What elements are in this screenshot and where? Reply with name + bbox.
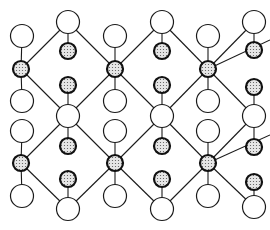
large-atom [151,198,174,221]
small-dotted-atom [60,43,76,59]
small-dotted-atom [60,171,76,187]
small-dotted-atom [107,155,123,171]
large-atom [197,120,220,143]
small-dotted-atom [154,138,170,154]
small-dotted-atom [246,139,262,155]
large-atom [151,11,174,34]
small-dotted-atom [13,61,29,77]
large-atom [197,90,220,113]
large-atom [151,105,174,128]
small-dotted-atom [154,43,170,59]
small-atoms-layer [13,42,262,190]
large-atom [11,185,34,208]
large-atom [57,11,80,34]
large-atom [197,185,220,208]
small-dotted-atom [154,77,170,93]
large-atom [243,105,266,128]
small-dotted-atom [246,42,262,58]
large-atom [104,185,127,208]
large-atom [104,25,127,48]
small-dotted-atom [60,138,76,154]
large-atom [11,25,34,48]
crystal-lattice-diagram [0,0,270,230]
small-dotted-atom [60,77,76,93]
large-atom [243,196,266,219]
small-dotted-atom [200,61,216,77]
large-atom [57,198,80,221]
small-dotted-atom [246,174,262,190]
large-atom [243,11,266,34]
large-atom [57,105,80,128]
small-dotted-atom [200,155,216,171]
large-atom [104,120,127,143]
large-atom [197,25,220,48]
large-atom [11,120,34,143]
small-dotted-atom [13,155,29,171]
large-atom [11,90,34,113]
large-atom [104,90,127,113]
small-dotted-atom [154,171,170,187]
small-dotted-atom [246,79,262,95]
small-dotted-atom [107,61,123,77]
